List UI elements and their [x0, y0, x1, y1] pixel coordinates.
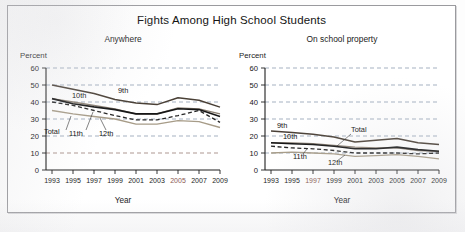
y-tick-0-school-property: 0 [254, 166, 258, 175]
gridlines-anywhere [46, 68, 220, 153]
page-title: Fights Among High School Students [8, 14, 455, 26]
x-ticks-school-property [271, 170, 439, 174]
y-tick-20-anywhere: 20 [31, 132, 39, 141]
y-tick-10-school-property: 10 [250, 149, 258, 158]
x-tick-2001-anywhere: 2001 [128, 177, 144, 184]
y-tick-10-anywhere: 10 [31, 149, 39, 158]
y-tick-50-school-property: 50 [250, 81, 258, 90]
y-tick-30-anywhere: 30 [31, 115, 39, 124]
y-axis-title-school-property: Percent [239, 51, 266, 60]
x-tick-1995-school-property: 1995 [284, 177, 300, 184]
x-tick-2005-school-property: 2005 [389, 177, 405, 184]
x-tick-2009-anywhere: 2009 [212, 177, 228, 184]
x-tick-1993-anywhere: 1993 [44, 177, 60, 184]
y-tick-30-school-property: 30 [250, 115, 258, 124]
series-annotations-anywhere: 10th 9th Total 11th 12th [44, 86, 128, 138]
y-axis-title-anywhere: Percent [20, 51, 47, 60]
panel-title-anywhere: Anywhere [14, 34, 232, 44]
chart-panel-school-property: On school property Percent [233, 34, 451, 206]
x-tick-1993-school-property: 1993 [263, 177, 279, 184]
y-tick-20-school-property: 20 [250, 132, 258, 141]
series-label-9th-school-property: 9th [277, 121, 287, 130]
series-label-10th-school-property: 10th [283, 132, 297, 141]
x-tick-2003-school-property: 2003 [368, 177, 384, 184]
y-ticks-anywhere [42, 68, 46, 170]
series-label-9th-anywhere: 9th [118, 86, 128, 95]
series-label-11th-anywhere: 11th [69, 129, 83, 138]
x-tick-1995-anywhere: 1995 [65, 177, 81, 184]
x-tick-2007-anywhere: 2007 [191, 177, 207, 184]
plot-area-school-property: 60 50 40 30 20 10 0 1993 [233, 60, 451, 192]
y-tick-60-school-property: 60 [250, 64, 258, 73]
x-ticks-anywhere [52, 170, 220, 174]
series-label-total-school-property: Total [351, 125, 367, 134]
x-axis-title-school-property: Year [233, 196, 451, 205]
x-tick-2005-anywhere: 2005 [170, 177, 186, 184]
x-tick-1997-anywhere: 1997 [86, 177, 102, 184]
x-axis-title-anywhere: Year [14, 196, 232, 205]
figure-frame: Fights Among High School Students Anywhe… [7, 5, 456, 213]
x-tick-1999-anywhere: 1999 [107, 177, 123, 184]
series-label-12th-school-property: 12th [328, 158, 342, 167]
panel-title-school-property: On school property [233, 34, 451, 44]
plot-area-anywhere: 60 50 40 30 20 10 0 [14, 60, 232, 192]
y-ticks-school-property [261, 68, 265, 170]
x-tick-2009-school-property: 2009 [431, 177, 447, 184]
x-tick-2007-school-property: 2007 [410, 177, 426, 184]
y-tick-50-anywhere: 50 [31, 81, 39, 90]
x-tick-2001-school-property: 2001 [347, 177, 363, 184]
series-label-total-anywhere: Total [44, 127, 60, 136]
y-tick-40-anywhere: 40 [31, 98, 39, 107]
series-label-10th-anywhere: 10th [72, 91, 86, 100]
scanned-page: Fights Among High School Students Anywhe… [0, 0, 465, 232]
series-label-12th-anywhere: 12th [99, 129, 113, 138]
series-label-11th-school-property: 11th [293, 152, 307, 161]
y-tick-0-anywhere: 0 [35, 166, 39, 175]
y-tick-60-anywhere: 60 [31, 64, 39, 73]
x-tick-1997-school-property: 1997 [305, 177, 321, 184]
x-tick-1999-school-property: 1999 [326, 177, 342, 184]
y-tick-40-school-property: 40 [250, 98, 258, 107]
chart-panel-anywhere: Anywhere Percent [14, 34, 232, 206]
x-tick-2003-anywhere: 2003 [149, 177, 165, 184]
